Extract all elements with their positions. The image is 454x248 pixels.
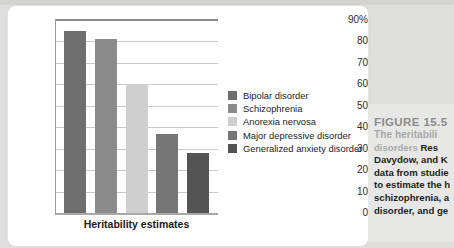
bar-chart: 90%80706050403020100 Heritability estima… — [8, 6, 368, 248]
y-axis-tick-70: 70 — [326, 58, 368, 68]
figure-body-run: Res — [420, 142, 438, 153]
legend-swatch-icon — [228, 117, 237, 126]
legend-item-2: Schizophrenia — [228, 102, 368, 115]
bar-1 — [64, 31, 86, 213]
legend-swatch-icon — [228, 144, 237, 153]
figure-body-line-5: to estimate the h — [374, 179, 454, 192]
y-axis-tick-90: 90% — [326, 15, 368, 25]
figure-body-line-3: Davydow, and K — [374, 154, 454, 167]
legend-label: Anorexia nervosa — [243, 116, 316, 127]
y-axis-tick-0: 0 — [326, 208, 368, 218]
figure-body-line-7: disorder, and ge — [374, 205, 454, 218]
bar-5 — [187, 153, 209, 213]
bar-3 — [126, 84, 148, 213]
y-axis-tick-60: 60 — [326, 79, 368, 89]
y-axis-tick-10: 10 — [326, 187, 368, 197]
figure-caption-panel: FIGURE 15.5 The heritabili disorders Res… — [368, 104, 454, 242]
figure-number: FIGURE 15.5 — [374, 116, 454, 129]
x-axis-line — [55, 213, 218, 215]
figure-body-line-4: data from studie — [374, 167, 454, 180]
legend-label: Major depressive disorder — [243, 130, 351, 141]
legend-item-1: Bipolar disorder — [228, 89, 368, 102]
y-axis-tick-80: 80 — [326, 36, 368, 46]
bar-4 — [156, 134, 178, 213]
legend-label: Generalized anxiety disorder — [243, 143, 362, 154]
legend-label: Bipolar disorder — [243, 90, 309, 101]
x-axis-label: Heritability estimates — [55, 218, 218, 230]
legend-swatch-icon — [228, 131, 237, 140]
legend-item-4: Major depressive disorder — [228, 129, 368, 142]
figure-title-run: disorders — [374, 142, 420, 153]
chart-legend: Bipolar disorderSchizophreniaAnorexia ne… — [228, 89, 368, 155]
legend-swatch-icon — [228, 91, 237, 100]
legend-item-5: Generalized anxiety disorder — [228, 142, 368, 155]
legend-swatch-icon — [228, 104, 237, 113]
figure-title-line-2: disorders Res — [374, 142, 454, 155]
bar-2 — [95, 39, 117, 213]
figure-body-line-6: schizophrenia, a — [374, 192, 454, 205]
legend-item-3: Anorexia nervosa — [228, 115, 368, 128]
y-axis-tick-20: 20 — [326, 165, 368, 175]
figure-panel: 90%80706050403020100 Heritability estima… — [7, 5, 369, 247]
legend-label: Schizophrenia — [243, 103, 302, 114]
bar-series — [55, 20, 218, 213]
figure-title-line-1: The heritabili — [374, 129, 454, 142]
